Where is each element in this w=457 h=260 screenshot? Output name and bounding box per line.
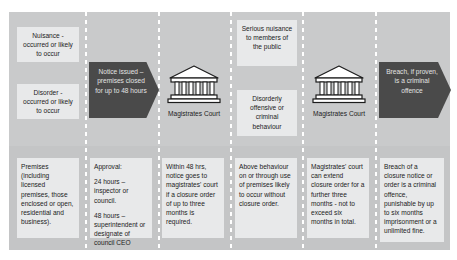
column-divider-2: [158, 12, 160, 250]
card-extend-closure: Magistrates' court can extend closure or…: [307, 158, 369, 238]
card-disorderly-text: Disorderly offensive or criminal behavio…: [241, 94, 293, 131]
card-breach-penalty: Breach of a closure notice or order is a…: [380, 158, 444, 242]
court-first-label: Magistrates Court: [162, 110, 226, 119]
card-within-48-hrs-text: Within 48 hrs, notice goes to magistrate…: [166, 162, 220, 226]
column-divider-1: [85, 12, 87, 250]
card-approval-24-hours: 24 hours – inspector or council.: [94, 177, 148, 205]
card-premises-text: Premises (including licensed premises, t…: [21, 162, 75, 226]
card-above-behaviour: Above behaviour on or through use of pre…: [235, 158, 297, 238]
card-breach-penalty-text: Breach of a closure notice or order is a…: [384, 162, 440, 236]
courthouse-icon: [162, 64, 226, 108]
card-premises: Premises (including licensed premises, t…: [17, 158, 79, 238]
column-divider-5: [375, 12, 377, 250]
arrow-notice-issued: Notice issued – premises closed for up t…: [89, 62, 159, 118]
court-second-label: Magistrates Court: [307, 110, 371, 119]
card-disorder: Disorder - occurred or likely to occur: [17, 84, 79, 119]
card-approval-48-hours: 48 hours – superintendent or designate o…: [94, 211, 148, 248]
column-divider-3: [230, 12, 232, 250]
card-serious-nuisance-text: Serious nuisance to members of the publi…: [241, 24, 293, 52]
card-approval: Approval: 24 hours – inspector or counci…: [90, 158, 152, 238]
card-disorder-text: Disorder - occurred or likely to occur: [21, 88, 75, 116]
arrow-breach: Breach, if proven, is a criminal offence: [379, 62, 451, 118]
card-extend-closure-text: Magistrates' court can extend closure or…: [311, 162, 365, 226]
card-within-48-hrs: Within 48 hrs, notice goes to magistrate…: [162, 158, 224, 238]
card-nuisance: Nuisance - occurred or likely to occur: [17, 27, 79, 62]
card-serious-nuisance: Serious nuisance to members of the publi…: [237, 20, 297, 66]
arrow-breach-text: Breach, if proven, is a criminal offence: [386, 68, 438, 94]
card-above-behaviour-text: Above behaviour on or through use of pre…: [239, 162, 293, 208]
flowchart-diagram: Nuisance - occurred or likely to occur D…: [9, 12, 450, 250]
courthouse-icon: [307, 64, 371, 108]
court-second: Magistrates Court: [307, 64, 371, 119]
card-nuisance-text: Nuisance - occurred or likely to occur: [21, 31, 75, 59]
card-approval-heading: Approval:: [94, 162, 148, 171]
card-disorderly: Disorderly offensive or criminal behavio…: [237, 90, 297, 136]
court-first: Magistrates Court: [162, 64, 226, 119]
arrow-notice-issued-text: Notice issued – premises closed for up t…: [95, 68, 147, 94]
column-divider-4: [302, 12, 304, 250]
